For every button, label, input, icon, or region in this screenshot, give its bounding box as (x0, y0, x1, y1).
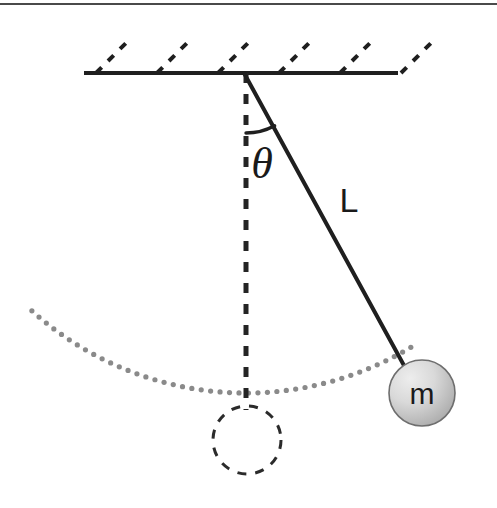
swing-path-dot (180, 384, 185, 389)
swing-path-dot (339, 376, 344, 381)
swing-path-dot (91, 352, 96, 357)
swing-path-dot (217, 389, 222, 394)
swing-path-dotted-arc (29, 308, 413, 395)
swing-path-dot (265, 390, 270, 395)
ceiling-hatching (96, 39, 435, 73)
swing-path-dot (125, 368, 130, 373)
swing-path-dot (236, 390, 241, 395)
swing-path-dot (383, 358, 388, 363)
swing-path-dot (199, 387, 204, 392)
swing-path-dot (302, 385, 307, 390)
swing-path-dot (100, 356, 105, 361)
swing-path-dot (400, 349, 405, 354)
swing-path-dot (357, 370, 362, 375)
swing-path-dot (134, 371, 139, 376)
hatch-mark (218, 39, 252, 73)
swing-path-dot (143, 374, 148, 379)
swing-path-dot (284, 388, 289, 393)
length-label-L: L (340, 181, 359, 219)
pendulum-string (244, 73, 407, 371)
hatch-mark (401, 39, 435, 73)
hatch-mark (340, 39, 374, 73)
swing-path-dot (67, 337, 72, 342)
hatch-mark (96, 39, 130, 73)
angle-label-theta: θ (251, 139, 273, 188)
swing-path-dot (36, 314, 41, 319)
swing-path-dot (117, 364, 122, 369)
swing-path-dot (51, 326, 56, 331)
swing-path-dot (348, 373, 353, 378)
swing-path-dot (75, 342, 80, 347)
swing-path-dot (83, 347, 88, 352)
swing-path-dot (161, 380, 166, 385)
swing-path-dot (293, 387, 298, 392)
pendulum-diagram-canvas: θ L m (0, 0, 497, 508)
swing-path-dot (375, 362, 380, 367)
swing-path-dot (227, 390, 232, 395)
swing-path-dot (29, 308, 34, 313)
swing-path-dot (108, 360, 113, 365)
equilibrium-position-dashed-circle (213, 406, 281, 474)
swing-path-dot (44, 320, 49, 325)
swing-path-dot (408, 345, 413, 350)
swing-path-dot (152, 377, 157, 382)
swing-path-dot (321, 381, 326, 386)
hatch-mark (157, 39, 191, 73)
swing-path-dot (255, 390, 260, 395)
swing-path-dot (189, 386, 194, 391)
mass-label-m: m (410, 377, 435, 410)
angle-arc (246, 126, 275, 133)
hatch-mark (279, 39, 313, 73)
swing-path-dot (208, 388, 213, 393)
swing-path-dot (366, 366, 371, 371)
swing-path-dot (312, 383, 317, 388)
swing-path-dot (171, 382, 176, 387)
pendulum-diagram: θ L m (0, 0, 497, 508)
swing-path-dot (330, 378, 335, 383)
swing-path-dot (59, 332, 64, 337)
swing-path-dot (274, 389, 279, 394)
